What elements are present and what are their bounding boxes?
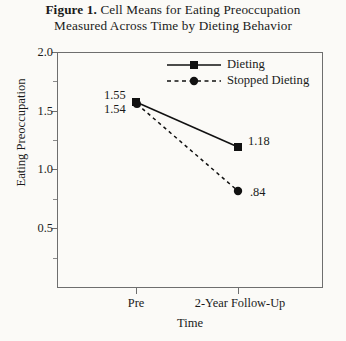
series-line-dieting	[136, 102, 238, 147]
legend-item-dieting: Dieting	[165, 57, 325, 73]
data-point-dieting-follow-up	[234, 143, 242, 151]
chart-legend: Dieting Stopped Dieting	[165, 57, 325, 89]
data-label-stopped-dieting-pre: 1.54	[104, 103, 126, 115]
legend-label-dieting: Dieting	[227, 57, 265, 72]
data-point-stopped-dieting-pre	[133, 100, 141, 108]
legend-item-stopped-dieting: Stopped Dieting	[165, 73, 325, 89]
legend-sample-stopped-dieting	[165, 73, 223, 89]
chart-figure: 2.0 1.5 1.0 0.5 Eating Preoccupation Pre…	[0, 0, 346, 341]
series-plot	[0, 0, 346, 341]
data-label-dieting-follow-up: 1.18	[248, 135, 270, 147]
data-label-stopped-dieting-follow-up: .84	[250, 186, 266, 198]
data-label-dieting-pre: 1.55	[104, 89, 126, 101]
legend-label-stopped-dieting: Stopped Dieting	[227, 73, 309, 88]
data-point-stopped-dieting-follow-up	[234, 187, 242, 195]
legend-sample-dieting	[165, 57, 223, 73]
series-line-stopped-dieting	[137, 104, 238, 191]
